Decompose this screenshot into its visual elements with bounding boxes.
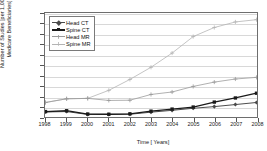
- data-point-marker: [149, 109, 152, 112]
- x-tick-mark: [236, 118, 237, 122]
- data-point-marker: [234, 96, 237, 99]
- data-point-marker: [213, 100, 216, 103]
- x-tick-mark: [215, 118, 216, 122]
- legend-item-head-mr[interactable]: Head MR: [52, 33, 91, 40]
- x-tick-mark: [87, 118, 88, 122]
- data-point-marker: [170, 90, 174, 94]
- data-point-marker: [233, 102, 237, 106]
- legend-label: Spine CT: [65, 27, 89, 33]
- data-point-marker: [233, 20, 237, 24]
- series-head-ct: [45, 100, 257, 116]
- data-point-marker: [170, 107, 173, 110]
- data-point-marker: [212, 80, 216, 84]
- data-point-marker: [65, 97, 69, 101]
- data-point-marker: [255, 92, 257, 95]
- data-point-marker: [86, 96, 90, 100]
- x-tick-mark: [108, 118, 109, 122]
- x-tick-label: 2008: [246, 121, 267, 127]
- data-point-marker: [254, 75, 257, 79]
- legend-label: Head CT: [65, 20, 88, 26]
- data-point-marker: [65, 109, 68, 112]
- legend-item-head-ct[interactable]: Head CT: [52, 19, 91, 26]
- x-tick-mark: [45, 118, 46, 122]
- legend-marker-icon: [52, 41, 65, 48]
- data-point-marker: [192, 105, 195, 108]
- x-tick-mark: [130, 118, 131, 122]
- x-tick-mark: [151, 118, 152, 122]
- data-point-marker: [149, 92, 153, 96]
- data-point-marker: [233, 77, 237, 81]
- chart-figure: Number of Studies [per 1,000 of Medicare…: [0, 0, 266, 151]
- data-point-marker: [191, 84, 195, 88]
- data-point-marker: [128, 112, 131, 115]
- data-point-marker: [128, 77, 132, 81]
- series-line: [45, 77, 256, 102]
- y-axis-title: Number of Studies [per 1,000 of Medicare…: [0, 0, 21, 84]
- y-axis-title-line2: Medicare Beneficiaries]: [6, 0, 13, 84]
- data-point-marker: [107, 113, 110, 116]
- x-axis-title: Time [ Years]: [40, 139, 266, 145]
- data-point-marker: [212, 105, 216, 109]
- x-tick-mark: [194, 118, 195, 122]
- data-point-marker: [45, 110, 47, 113]
- legend-marker-icon: [52, 19, 65, 26]
- legend-item-spine-mr[interactable]: Spine MR: [52, 41, 91, 48]
- data-point-marker: [45, 100, 48, 104]
- data-point-marker: [254, 100, 257, 104]
- data-point-marker: [86, 112, 89, 115]
- x-tick-mark: [258, 118, 259, 122]
- legend-marker-icon: [52, 26, 65, 33]
- legend: Head CTSpine CTHead MRSpine MR: [49, 16, 95, 51]
- data-point-marker: [212, 25, 216, 29]
- x-tick-mark: [66, 118, 67, 122]
- data-point-marker: [254, 18, 257, 22]
- data-point-marker: [107, 98, 111, 102]
- legend-label: Head MR: [65, 34, 90, 40]
- data-point-marker: [107, 88, 111, 92]
- legend-label: Spine MR: [65, 41, 91, 47]
- legend-item-spine-ct[interactable]: Spine CT: [52, 26, 91, 33]
- legend-marker-icon: [52, 33, 65, 40]
- x-tick-mark: [172, 118, 173, 122]
- data-point-marker: [128, 98, 132, 102]
